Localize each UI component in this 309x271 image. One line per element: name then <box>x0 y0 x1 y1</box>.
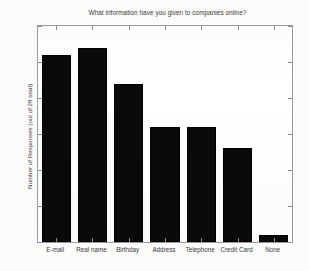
x-axis-tick-label: Telephone <box>182 246 218 253</box>
figure-canvas: What information have you given to compa… <box>0 0 309 271</box>
x-axis-tick-top <box>165 26 166 30</box>
y-axis-tick-right <box>288 170 292 171</box>
x-axis-tick-label: E-mail <box>37 246 73 253</box>
bar-real-name <box>78 48 107 242</box>
y-axis-tick <box>38 26 42 27</box>
y-axis-tick-right <box>288 62 292 63</box>
y-axis-tick-right <box>288 242 292 243</box>
plot-inner <box>38 26 292 242</box>
x-axis-tick <box>92 238 93 242</box>
y-axis-tick-right <box>288 206 292 207</box>
y-axis-tick-right <box>288 134 292 135</box>
x-axis-tick-label: Address <box>146 246 182 253</box>
x-axis-tick-top <box>56 26 57 30</box>
x-axis-tick-label: None <box>255 246 291 253</box>
chart-title: What information have you given to compa… <box>40 9 295 17</box>
bar-birthday <box>114 84 143 242</box>
x-axis-tick-top <box>201 26 202 30</box>
bar-e-mail <box>42 55 71 242</box>
y-axis-title: Number of Responses (out of 28 total) <box>26 42 33 232</box>
y-axis-tick <box>38 242 42 243</box>
x-axis-tick <box>238 238 239 242</box>
bar-telephone <box>187 127 216 242</box>
y-axis-tick-right <box>288 98 292 99</box>
x-axis-tick <box>165 238 166 242</box>
plot-area <box>37 25 293 243</box>
x-axis-tick <box>201 238 202 242</box>
x-axis-tick-top <box>274 26 275 30</box>
x-axis-tick-top <box>129 26 130 30</box>
x-axis-tick <box>56 238 57 242</box>
x-axis-tick-label: Real name <box>73 246 109 253</box>
bar-credit-card <box>223 148 252 242</box>
x-axis-tick <box>274 238 275 242</box>
x-axis-tick-label: Credit Card <box>218 246 254 253</box>
x-axis-tick-label: Birthday <box>110 246 146 253</box>
x-axis-tick-top <box>238 26 239 30</box>
y-axis-tick-right <box>288 26 292 27</box>
x-axis-tick <box>129 238 130 242</box>
bar-address <box>150 127 179 242</box>
x-axis-tick-top <box>92 26 93 30</box>
